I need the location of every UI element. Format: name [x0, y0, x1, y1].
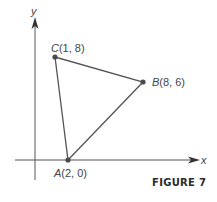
figure-caption: FIGURE 7 [152, 177, 206, 188]
point-b [140, 79, 145, 84]
point-c-label: C(1, 8) [51, 42, 85, 54]
y-axis-label: y [30, 5, 38, 17]
figure-canvas: y x C(1, 8) B(8, 6) A(2, 0) FIGURE 7 [0, 0, 217, 202]
point-b-label: B(8, 6) [152, 76, 185, 88]
point-a [65, 157, 70, 162]
triangle-abc [55, 57, 143, 160]
x-axis-label: x [200, 154, 207, 166]
point-c [52, 54, 57, 59]
point-a-label: A(2, 0) [53, 167, 87, 179]
coordinate-diagram: y x C(1, 8) B(8, 6) A(2, 0) FIGURE 7 [0, 0, 217, 202]
